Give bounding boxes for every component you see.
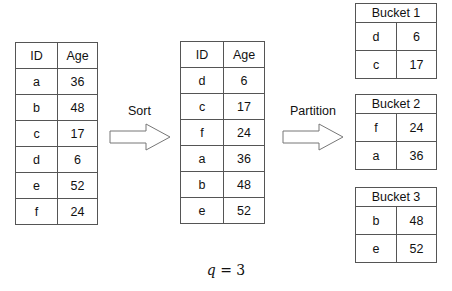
original-table: ID Age a36 b48 c17 d6 e52 f24 <box>15 42 98 225</box>
cell-id: d <box>181 68 224 94</box>
header-id: ID <box>16 43 58 69</box>
table-header-row: ID Age <box>16 43 98 69</box>
table-row: d6 <box>16 147 98 173</box>
cell-id: f <box>181 120 224 146</box>
cell-id: a <box>356 142 397 170</box>
cell-age: 52 <box>224 198 265 224</box>
cell-id: a <box>181 146 224 172</box>
caption-q-equals: q = 3 <box>0 262 452 278</box>
cell-age: 48 <box>224 172 265 198</box>
cell-age: 17 <box>224 94 265 120</box>
table-row: e52 <box>181 198 265 224</box>
bucket-header-row: Bucket 3 <box>356 188 437 207</box>
table-row: f24 <box>16 199 98 225</box>
cell-id: d <box>16 147 58 173</box>
cell-id: c <box>356 51 397 79</box>
table-row: b48 <box>356 207 437 235</box>
cell-age: 48 <box>397 207 437 235</box>
caption-operator: = <box>216 262 237 278</box>
cell-id: e <box>181 198 224 224</box>
sorted-table: ID Age d6 c17 f24 a36 b48 e52 <box>180 41 265 224</box>
header-id: ID <box>181 42 224 68</box>
cell-id: f <box>356 114 397 142</box>
cell-id: c <box>16 121 58 147</box>
cell-age: 52 <box>397 235 437 263</box>
cell-id: b <box>181 172 224 198</box>
cell-age: 6 <box>58 147 98 173</box>
cell-id: a <box>16 69 58 95</box>
cell-age: 48 <box>58 95 98 121</box>
cell-age: 17 <box>58 121 98 147</box>
caption-variable: q <box>207 262 216 278</box>
table-header-row: ID Age <box>181 42 265 68</box>
cell-age: 24 <box>224 120 265 146</box>
cell-id: e <box>356 235 397 263</box>
cell-age: 17 <box>397 51 437 79</box>
bucket-2: Bucket 2 f24 a36 <box>355 94 437 170</box>
cell-age: 36 <box>224 146 265 172</box>
cell-id: b <box>16 95 58 121</box>
bucket-header-row: Bucket 1 <box>356 4 437 23</box>
right-arrow-icon <box>108 123 172 151</box>
cell-id: e <box>16 173 58 199</box>
table-row: d6 <box>356 23 437 51</box>
cell-id: c <box>181 94 224 120</box>
right-arrow-icon <box>281 123 345 151</box>
cell-age: 36 <box>58 69 98 95</box>
cell-age: 36 <box>397 142 437 170</box>
bucket-title: Bucket 2 <box>356 95 437 114</box>
sort-label: Sort <box>128 104 151 118</box>
table-row: c17 <box>16 121 98 147</box>
bucket-header-row: Bucket 2 <box>356 95 437 114</box>
cell-age: 24 <box>58 199 98 225</box>
cell-age: 52 <box>58 173 98 199</box>
cell-age: 24 <box>397 114 437 142</box>
header-age: Age <box>58 43 98 69</box>
cell-age: 6 <box>397 23 437 51</box>
bucket-1: Bucket 1 d6 c17 <box>355 3 437 79</box>
table-row: e52 <box>16 173 98 199</box>
cell-id: d <box>356 23 397 51</box>
table-row: c17 <box>181 94 265 120</box>
header-age: Age <box>224 42 265 68</box>
bucket-3: Bucket 3 b48 e52 <box>355 187 437 263</box>
table-row: d6 <box>181 68 265 94</box>
table-row: a36 <box>181 146 265 172</box>
partition-label: Partition <box>290 104 336 118</box>
table-row: e52 <box>356 235 437 263</box>
table-row: a36 <box>16 69 98 95</box>
bucket-title: Bucket 3 <box>356 188 437 207</box>
bucket-title: Bucket 1 <box>356 4 437 23</box>
table-row: c17 <box>356 51 437 79</box>
table-row: f24 <box>356 114 437 142</box>
caption-value: 3 <box>236 262 245 278</box>
table-row: b48 <box>181 172 265 198</box>
table-row: b48 <box>16 95 98 121</box>
cell-id: b <box>356 207 397 235</box>
table-row: f24 <box>181 120 265 146</box>
cell-age: 6 <box>224 68 265 94</box>
table-row: a36 <box>356 142 437 170</box>
cell-id: f <box>16 199 58 225</box>
